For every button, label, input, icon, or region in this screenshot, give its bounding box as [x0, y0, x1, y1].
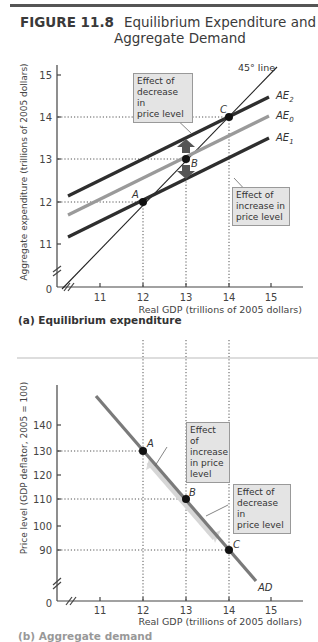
- x-tick: 11: [94, 292, 107, 303]
- origin-label: 0: [46, 284, 52, 295]
- y-tick: 12: [39, 197, 52, 208]
- panel-b-x-axis-label: Real GDP (trillions of 2005 dollars): [139, 616, 303, 627]
- ae-labels: AE2 AE0 AE1: [275, 90, 294, 146]
- panel-a-x-ticks: 11 12 13 14 15: [94, 292, 278, 303]
- annotation-line: in price: [190, 458, 226, 469]
- ae2-label: AE2: [275, 90, 294, 104]
- annotation-decrease-a: Effect of decrease in price level: [133, 73, 193, 123]
- annotation-line: decrease in: [237, 498, 287, 520]
- point-a: [139, 447, 147, 455]
- panel-b-x-ticks: 11 12 13 14 15: [94, 605, 278, 616]
- annotation-line: price level: [236, 212, 286, 223]
- y-tick: 100: [33, 521, 52, 532]
- annotation-line: increase: [190, 447, 226, 458]
- x-tick: 14: [223, 292, 236, 303]
- y-tick: 140: [33, 420, 52, 431]
- y-tick: 130: [33, 446, 52, 457]
- origin-label: 0: [46, 598, 52, 609]
- x-tick: 12: [137, 292, 150, 303]
- panel-a-y-axis-label: Aggregate expenditure (trillions of 2005…: [19, 63, 29, 280]
- panel-b-caption: (b) Aggregate demand: [18, 630, 152, 642]
- annotation-decrease-b: Effect of decrease in price level: [233, 484, 291, 534]
- annotation-increase-b: Effect of increase in price level: [186, 422, 230, 483]
- panel-a-y-ticks: 15 14 13 12 11 0: [39, 70, 52, 295]
- y-tick: 13: [39, 154, 52, 165]
- ae0-label: AE0: [275, 110, 294, 124]
- annotation-line: increase in: [236, 201, 286, 212]
- annotation-increase-a: Effect of increase in price level: [232, 187, 290, 226]
- annotation-line: Effect of: [236, 190, 286, 201]
- panel-a-caption: (a) Equilibrium expenditure: [18, 314, 182, 326]
- ae1-label: AE1: [275, 132, 294, 146]
- x-tick: 14: [223, 605, 236, 616]
- y-tick: 90: [39, 545, 52, 556]
- label-b: B: [191, 158, 198, 169]
- x-tick: 15: [265, 605, 278, 616]
- panel-b-y-ticks: 140 130 120 110 100 90 0: [33, 420, 52, 609]
- label-c: C: [233, 539, 240, 550]
- label-b: B: [189, 487, 196, 498]
- annotation-line: decrease in: [137, 87, 189, 109]
- point-c: [225, 546, 233, 554]
- ad-label: AD: [257, 582, 273, 593]
- y-tick: 11: [39, 239, 52, 250]
- label-a: A: [146, 438, 154, 449]
- x-tick: 12: [137, 605, 150, 616]
- x-tick: 15: [265, 292, 278, 303]
- annotation-line: Effect of: [137, 76, 189, 87]
- y-tick: 110: [33, 494, 52, 505]
- annotation-line: Effect of: [237, 487, 287, 498]
- annotation-line: price level: [237, 520, 287, 531]
- x-tick: 11: [94, 605, 107, 616]
- x-tick: 13: [180, 605, 193, 616]
- point-a: [139, 198, 147, 206]
- annotation-line: Effect of: [190, 425, 226, 447]
- panel-b-y-axis-label: Price level (GDP deflator, 2005 = 100): [19, 382, 29, 555]
- y-tick: 15: [39, 70, 52, 81]
- leader-increase-b: [155, 447, 167, 466]
- annotation-line: price level: [137, 109, 189, 120]
- point-b: [182, 155, 190, 163]
- ad-curve: [96, 396, 256, 581]
- x-tick: 13: [180, 292, 193, 303]
- y-tick: 120: [33, 470, 52, 481]
- label-c: C: [220, 104, 227, 115]
- y-tick: 14: [39, 112, 52, 123]
- leader-decrease-b: [206, 505, 228, 516]
- annotation-line: level: [190, 469, 226, 480]
- label-a: A: [131, 189, 139, 200]
- line-45-label: 45° line: [238, 62, 275, 73]
